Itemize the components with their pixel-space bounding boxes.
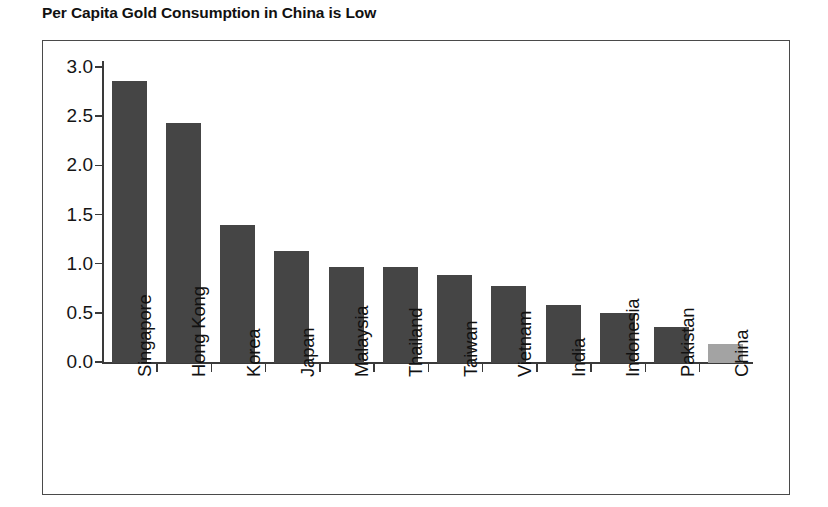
x-axis-tick [373,363,375,372]
x-axis-label-india: India [570,338,589,377]
x-axis-label-japan: Japan [299,328,318,377]
x-axis-tick [699,363,701,372]
x-axis-tick [319,363,321,372]
x-axis-tick [590,363,592,372]
x-axis-label-hong-kong: Hong Kong [190,286,209,377]
x-axis-label-singapore: Singapore [136,294,155,377]
x-axis-tick [211,363,213,372]
x-axis-tick [428,363,430,372]
x-axis-tick [482,363,484,372]
x-axis-label-thailand: Thailand [407,308,426,377]
x-axis-tick [265,363,267,372]
x-axis-label-korea: Korea [245,329,264,377]
plot-area: 0.00.51.01.52.02.53.0 SingaporeHong Kong… [43,41,789,494]
x-axis-label-pakistan: Pakistan [679,308,698,377]
x-axis-label-indonesia: Indonesia [624,299,643,377]
chart-title: Per Capita Gold Consumption in China is … [42,4,376,22]
x-axis-label-vietnam: Vietnam [516,311,535,377]
x-axis-label-taiwan: Taiwan [462,321,481,377]
x-axis-label-malaysia: Malaysia [353,306,372,377]
x-axis-tick [536,363,538,372]
x-axis-label-china: China [733,330,752,377]
x-axis-tick [645,363,647,372]
x-axis-tick [156,363,158,372]
chart-plot-frame: 0.00.51.01.52.02.53.0 SingaporeHong Kong… [42,40,790,495]
